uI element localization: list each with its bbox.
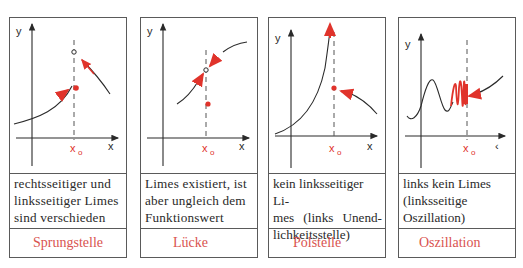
discontinuity-type-label: Sprungstelle [10, 230, 126, 257]
description-line: kein linksseitiger Li- [273, 175, 382, 209]
x0-subscript: o [78, 148, 83, 157]
y-axis-label: y [16, 25, 22, 37]
y-axis-label: y [405, 38, 411, 50]
oscillation-plot: y ‹ x o [399, 18, 515, 173]
y-axis-label: y [147, 25, 153, 37]
right-branch-curve [475, 76, 503, 94]
x0-subscript: o [337, 148, 342, 157]
x0-subscript: o [210, 148, 215, 157]
left-branch-curve [14, 86, 72, 124]
description: kein linksseitiger Li- mes (links Unend-… [269, 173, 385, 229]
discontinuity-type-label: Lücke [141, 230, 257, 257]
graph-oszillation: y ‹ x o [399, 18, 515, 174]
right-limit-arrow [210, 58, 217, 66]
removable-discontinuity-plot: y x x o [141, 18, 257, 173]
right-limit-arrow [82, 60, 94, 74]
description-line: rechtsseitiger und [14, 175, 123, 192]
right-limit-arrow [469, 94, 479, 96]
function-value-dot [73, 85, 79, 91]
description-line: mes (links Unend- [273, 209, 382, 226]
panel-polstelle: y x x o kein linksseitiger Li- mes (link… [268, 17, 386, 258]
y-axis-label: y [275, 32, 281, 44]
function-value-dot [205, 101, 210, 106]
left-branch-curve [275, 30, 330, 134]
panel-sprungstelle: y x x o rechtsseitiger und linksseitiger… [9, 17, 127, 258]
description-line: (linksseitige [403, 192, 512, 209]
description-line: Limes existiert, ist [145, 175, 254, 192]
description-line: linksseitiger Limes [14, 192, 123, 209]
description: rechtsseitiger und linksseitiger Limes s… [10, 173, 126, 229]
x0-label: x [70, 142, 76, 154]
x0-label: x [329, 142, 335, 154]
x-axis-label: x [239, 140, 245, 152]
left-wave-curve [407, 80, 453, 119]
right-branch-curve [347, 92, 377, 114]
description-line: aber ungleich dem [145, 192, 254, 209]
left-limit-arrow [197, 74, 203, 84]
description-line: sind verschieden [14, 209, 123, 226]
oscillation-dense-band [463, 84, 468, 104]
discontinuity-type-label: Oszillation [399, 230, 515, 257]
description-line: Funktionswert [145, 209, 254, 226]
description: links kein Limes (linksseitige Oszillati… [399, 173, 515, 229]
jump-discontinuity-plot: y x x o [10, 18, 126, 173]
discontinuity-type-label: Polstelle [269, 230, 385, 257]
x0-label: x [463, 142, 469, 154]
limit-open-circle [204, 68, 208, 72]
x-axis-label: x [108, 140, 114, 152]
graph-polstelle: y x x o [269, 18, 385, 174]
function-value-dot [331, 85, 336, 90]
graph-luecke: y x x o [141, 18, 257, 174]
x0-subscript: o [471, 148, 476, 157]
graph-sprungstelle: y x x o [10, 18, 126, 174]
pole-plot: y x x o [269, 18, 385, 173]
right-limit-open-circle [72, 50, 76, 54]
x-axis-label: ‹ [495, 140, 499, 152]
panel-oszillation: y ‹ x o links kein Limes (linksseitige O… [398, 17, 516, 258]
description-line: links kein Limes [403, 175, 512, 192]
x0-label: x [202, 142, 208, 154]
right-branch-curve [223, 42, 247, 52]
left-branch-curve [177, 80, 199, 104]
description-line: Oszillation) [403, 209, 512, 226]
description: Limes existiert, ist aber ungleich dem F… [141, 173, 257, 229]
x-axis-label: x [367, 140, 373, 152]
panel-luecke: y x x o Limes existiert, ist aber unglei… [140, 17, 258, 258]
